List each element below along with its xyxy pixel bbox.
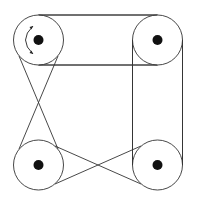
- pulley-hub-icon: [34, 160, 44, 170]
- pulley-diagram: [0, 0, 197, 207]
- pulley-hub-icon: [34, 35, 44, 45]
- pulley-hub-icon: [153, 160, 163, 170]
- diagram-canvas: [0, 0, 197, 207]
- pulley-bottom-right: [133, 140, 183, 190]
- pulley-bottom-left: [14, 140, 64, 190]
- pulley-hub-icon: [153, 35, 163, 45]
- pulley-top-left: [14, 15, 64, 65]
- pulley-top-right: [133, 15, 183, 65]
